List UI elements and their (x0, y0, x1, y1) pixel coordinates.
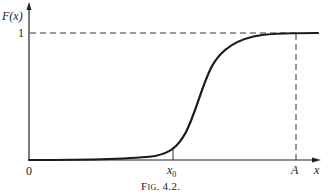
y-axis-arrow-icon (27, 2, 32, 10)
origin-label: 0 (26, 165, 32, 177)
distribution-curve (29, 33, 318, 160)
y-tick-label-one: 1 (18, 27, 24, 39)
figure-caption: Fig. 4.2. (141, 181, 180, 192)
a-label: A (291, 164, 298, 176)
x-axis-arrow-icon (312, 158, 321, 163)
x0-label: x0 (167, 164, 176, 179)
x-axis-label: x (314, 164, 319, 176)
y-axis-label: F(x) (2, 10, 23, 22)
x0-label-sub: 0 (172, 170, 176, 179)
figure-canvas (0, 0, 328, 195)
